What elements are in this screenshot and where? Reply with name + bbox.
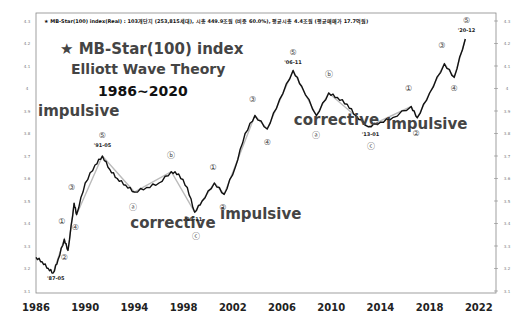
wave-label: ⑤ bbox=[289, 48, 296, 57]
phase-label: corrective bbox=[294, 111, 379, 129]
wave-label: ④ bbox=[72, 223, 79, 232]
y-tick-label: 4.1 bbox=[504, 64, 511, 69]
wave-label: ① bbox=[405, 84, 412, 93]
y-tick-label: 3.7 bbox=[504, 154, 511, 159]
x-tick-label: 1986 bbox=[22, 302, 50, 313]
elliott-wave-chart: 3.13.23.33.43.53.63.73.83.944.14.24.3 3.… bbox=[0, 0, 530, 333]
wave-label: ① bbox=[210, 163, 217, 172]
pivot-date-label: '20-12 bbox=[458, 27, 476, 33]
y-tick-label: 3.6 bbox=[24, 176, 31, 181]
y-tick-label: 3.7 bbox=[24, 154, 31, 159]
phase-label: impulsive bbox=[386, 115, 467, 133]
x-tick-label: 2018 bbox=[416, 302, 444, 313]
x-tick-label: 1998 bbox=[170, 302, 198, 313]
y-tick-label: 3.3 bbox=[504, 244, 511, 249]
pivot-date-label: '98-11 bbox=[185, 216, 203, 222]
pivot-date-label: '91-05 bbox=[94, 142, 112, 148]
chart-header: ★ MB-Star(100) index(Real) : 103개단지 (253… bbox=[44, 18, 368, 25]
y-tick-label: 3.5 bbox=[504, 199, 511, 204]
phase-label: impulsive bbox=[220, 205, 301, 223]
y-tick-label: 4.3 bbox=[504, 19, 511, 24]
y-tick-label: 3.6 bbox=[504, 176, 511, 181]
x-tick-label: 2002 bbox=[219, 302, 247, 313]
wave-label: ① bbox=[58, 217, 65, 226]
wave-label: ⑤ bbox=[463, 16, 470, 25]
y-tick-label: 3.3 bbox=[24, 244, 31, 249]
y-tick-label: 3.8 bbox=[24, 131, 31, 136]
pivot-date-label: '87-05 bbox=[47, 275, 65, 281]
y-tick-label: 4.1 bbox=[24, 64, 31, 69]
x-tick-label: 2010 bbox=[317, 302, 345, 313]
y-tick-label: 4.3 bbox=[24, 19, 31, 24]
y-tick-label: 3.1 bbox=[504, 289, 511, 294]
y-tick-label: 4 bbox=[506, 86, 509, 91]
title-line-2: Elliott Wave Theory bbox=[71, 61, 225, 77]
phase-label: corrective bbox=[130, 214, 215, 232]
wave-label: ⓒ bbox=[192, 232, 200, 241]
y-tick-label: 3.4 bbox=[504, 221, 511, 226]
x-tick-label: 1990 bbox=[71, 302, 99, 313]
x-tick-label: 2014 bbox=[366, 302, 394, 313]
y-tick-label: 3.2 bbox=[24, 266, 31, 271]
y-tick-label: 4.2 bbox=[24, 41, 31, 46]
y-tick-label: 3.2 bbox=[504, 266, 511, 271]
wave-label: ③ bbox=[249, 95, 256, 104]
wave-label: ③ bbox=[68, 183, 75, 192]
wave-label: ② bbox=[412, 129, 419, 138]
phase-label: impulsive bbox=[38, 102, 119, 120]
wave-label: ⓒ bbox=[367, 142, 375, 151]
x-axis: 1986199019941998200220062010201420182022 bbox=[22, 302, 493, 313]
y-tick-label: 4 bbox=[26, 86, 29, 91]
y-tick-label: 4.2 bbox=[504, 41, 511, 46]
y-tick-label: 3.9 bbox=[504, 109, 511, 114]
y-tick-label: 3.8 bbox=[504, 131, 511, 136]
title-line-1: ★ MB-Star(100) index bbox=[60, 40, 244, 58]
wave-label: ④ bbox=[264, 138, 271, 147]
y-tick-label: 3.9 bbox=[24, 109, 31, 114]
title-line-3: 1986~2020 bbox=[98, 83, 188, 99]
wave-label: ⓐ bbox=[129, 203, 137, 212]
y-tick-label: 3.1 bbox=[24, 289, 31, 294]
wave-label: ⑤ bbox=[99, 131, 106, 140]
x-tick-label: 2006 bbox=[268, 302, 296, 313]
wave-label: ⓐ bbox=[312, 131, 320, 140]
pivot-date-label: '06-11 bbox=[284, 59, 302, 65]
y-tick-label: 3.4 bbox=[24, 221, 31, 226]
wave-label: ⓑ bbox=[325, 70, 333, 79]
pivot-date-label: '13-01 bbox=[362, 131, 380, 137]
y-axis-right: 3.13.23.33.43.53.63.73.83.944.14.24.3 bbox=[494, 19, 511, 294]
wave-label: ③ bbox=[438, 41, 445, 50]
y-tick-label: 3.5 bbox=[24, 199, 31, 204]
wave-label: ④ bbox=[451, 84, 458, 93]
y-axis-left: 3.13.23.33.43.53.63.73.83.944.14.24.3 bbox=[24, 19, 31, 294]
x-tick-label: 2022 bbox=[465, 302, 493, 313]
wave-label: ⓑ bbox=[167, 151, 175, 160]
wave-label: ② bbox=[219, 203, 226, 212]
wave-label: ② bbox=[61, 253, 68, 262]
x-tick-label: 1994 bbox=[120, 302, 148, 313]
